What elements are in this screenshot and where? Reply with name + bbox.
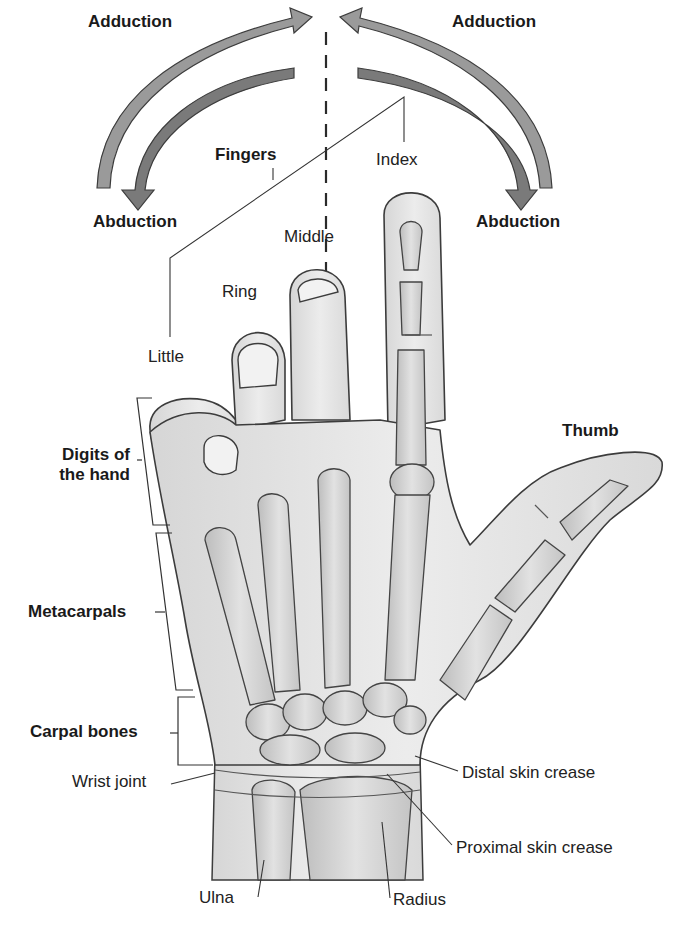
label-abduction-right: Abduction <box>476 212 560 232</box>
label-fingers: Fingers <box>215 145 276 165</box>
label-digits-of-the-hand: Digits of the hand <box>38 445 130 484</box>
finger-leader-lines <box>170 97 404 337</box>
label-ulna: Ulna <box>199 888 234 908</box>
label-little: Little <box>148 347 184 367</box>
label-proximal-skin-crease: Proximal skin crease <box>456 838 613 858</box>
label-digits-line1: Digits of <box>38 445 130 465</box>
label-abduction-left: Abduction <box>93 212 177 232</box>
movement-arrows <box>97 8 552 210</box>
label-index: Index <box>376 150 418 170</box>
label-adduction-left: Adduction <box>88 12 172 32</box>
label-digits-line2: the hand <box>38 465 130 485</box>
label-distal-skin-crease: Distal skin crease <box>462 763 595 783</box>
label-ring: Ring <box>222 282 257 302</box>
label-metacarpals: Metacarpals <box>28 602 126 622</box>
label-adduction-right: Adduction <box>452 12 536 32</box>
label-thumb: Thumb <box>562 421 619 441</box>
label-radius: Radius <box>393 890 446 910</box>
radius-bone <box>300 777 412 881</box>
label-middle: Middle <box>284 227 334 247</box>
label-carpal-bones: Carpal bones <box>30 722 138 742</box>
label-wrist-joint: Wrist joint <box>72 772 146 792</box>
abduction-arrow-right <box>358 68 537 210</box>
